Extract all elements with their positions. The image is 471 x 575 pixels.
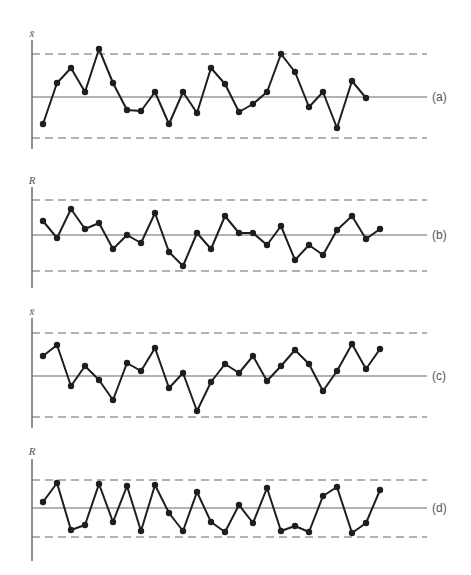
data-point	[54, 480, 60, 486]
data-point	[68, 383, 74, 389]
data-point	[194, 408, 200, 414]
data-point	[222, 361, 228, 367]
y-axis-label: x̄	[29, 305, 35, 317]
data-point	[138, 528, 144, 534]
control-chart-d: R(d)	[28, 445, 447, 561]
data-point	[377, 346, 383, 352]
control-chart-a: x̄(a)	[29, 27, 447, 149]
data-point	[194, 489, 200, 495]
data-point	[166, 121, 172, 127]
data-point	[180, 528, 186, 534]
y-axis-label: x̄	[29, 27, 35, 39]
panel-label: (a)	[432, 90, 447, 104]
data-point	[40, 121, 46, 127]
data-point	[334, 125, 340, 131]
data-point	[194, 110, 200, 116]
data-point	[320, 89, 326, 95]
data-point	[236, 109, 242, 115]
data-point	[110, 519, 116, 525]
data-point	[166, 385, 172, 391]
data-point	[363, 520, 369, 526]
data-point	[250, 101, 256, 107]
data-point	[208, 246, 214, 252]
data-point	[278, 223, 284, 229]
data-point	[250, 520, 256, 526]
data-point	[166, 249, 172, 255]
data-point	[110, 246, 116, 252]
data-point	[264, 485, 270, 491]
data-point	[110, 80, 116, 86]
data-point	[222, 529, 228, 535]
data-point	[124, 360, 130, 366]
data-point	[363, 366, 369, 372]
data-point	[68, 527, 74, 533]
control-chart-c: x̄(c)	[29, 305, 446, 428]
data-point	[138, 368, 144, 374]
data-point	[292, 69, 298, 75]
data-point	[110, 397, 116, 403]
data-point	[236, 502, 242, 508]
data-point	[152, 482, 158, 488]
panel-label: (d)	[432, 501, 447, 515]
data-point	[54, 342, 60, 348]
data-point	[222, 213, 228, 219]
data-point	[124, 232, 130, 238]
data-point	[40, 218, 46, 224]
control-chart-b: R(b)	[28, 174, 447, 288]
data-point	[264, 378, 270, 384]
data-point	[82, 522, 88, 528]
data-point	[264, 89, 270, 95]
data-series-line	[43, 344, 380, 411]
data-point	[166, 510, 172, 516]
data-point	[40, 353, 46, 359]
data-point	[152, 89, 158, 95]
data-point	[334, 227, 340, 233]
data-point	[250, 353, 256, 359]
data-point	[292, 257, 298, 263]
data-point	[180, 263, 186, 269]
data-point	[363, 236, 369, 242]
data-point	[334, 484, 340, 490]
data-series-line	[43, 49, 366, 128]
data-point	[54, 235, 60, 241]
panel-label: (b)	[432, 228, 447, 242]
data-point	[236, 230, 242, 236]
data-point	[349, 213, 355, 219]
data-point	[180, 370, 186, 376]
data-point	[124, 107, 130, 113]
data-point	[68, 206, 74, 212]
data-point	[349, 341, 355, 347]
data-point	[306, 104, 312, 110]
panel-label: (c)	[432, 369, 446, 383]
data-point	[264, 242, 270, 248]
data-point	[96, 220, 102, 226]
data-point	[306, 529, 312, 535]
data-point	[208, 379, 214, 385]
data-point	[82, 363, 88, 369]
data-point	[96, 46, 102, 52]
control-charts: x̄(a)R(b)x̄(c)R(d)	[0, 0, 471, 575]
y-axis-label: R	[28, 445, 36, 457]
data-point	[306, 242, 312, 248]
data-point	[82, 226, 88, 232]
data-point	[194, 230, 200, 236]
data-point	[222, 81, 228, 87]
data-point	[349, 530, 355, 536]
data-point	[96, 377, 102, 383]
data-point	[278, 528, 284, 534]
data-point	[377, 226, 383, 232]
data-point	[292, 523, 298, 529]
data-point	[377, 487, 383, 493]
data-point	[180, 89, 186, 95]
data-point	[320, 252, 326, 258]
data-point	[278, 51, 284, 57]
data-point	[82, 89, 88, 95]
data-point	[138, 240, 144, 246]
y-axis-label: R	[28, 174, 36, 186]
data-point	[54, 80, 60, 86]
data-point	[40, 499, 46, 505]
data-point	[208, 519, 214, 525]
data-point	[320, 388, 326, 394]
data-series-line	[43, 209, 380, 266]
data-point	[96, 481, 102, 487]
